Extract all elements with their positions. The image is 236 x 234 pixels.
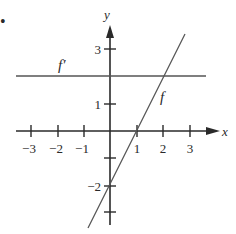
x-tick-label: 2 [160, 141, 167, 156]
y-tick-label: 3 [95, 42, 102, 57]
x-axis-arrow-icon [206, 127, 220, 135]
x-axis-label: x [221, 124, 228, 139]
x-tick-label: −3 [22, 141, 36, 156]
y-axis-label: y [102, 7, 110, 22]
y-axis-arrow-icon [106, 25, 114, 38]
y-tick-label: −2 [87, 179, 101, 194]
x-tick-label: 1 [134, 141, 141, 156]
y-tick-label: 1 [95, 97, 102, 112]
graph-figure: • x y −3 −2 −1 1 2 3 3 1 −2 f′ f [0, 0, 236, 234]
x-tick-label: 3 [187, 141, 194, 156]
f-prime-label: f′ [58, 57, 66, 73]
bullet-marker: • [0, 13, 6, 30]
x-tick-label: −2 [49, 141, 63, 156]
f-label: f [160, 89, 166, 105]
x-tick-label: −1 [75, 141, 89, 156]
